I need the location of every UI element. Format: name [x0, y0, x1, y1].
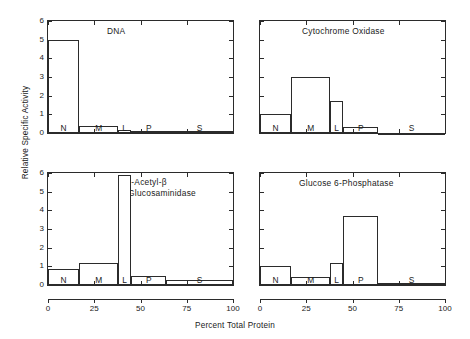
x-axis-tick-label: 0 [37, 304, 59, 313]
fraction-label-l: L [117, 123, 133, 133]
x-tick-top [48, 173, 49, 177]
x-axis-tick-label: 25 [295, 304, 317, 313]
fraction-label-p: P [353, 275, 369, 285]
x-tick-bottom [260, 281, 261, 285]
y-tick-label: 2 [32, 243, 44, 252]
y-tick-label: 6 [32, 16, 44, 25]
x-tick-bottom [187, 281, 188, 285]
y-tick-right [229, 40, 233, 41]
y-tick-right [441, 210, 445, 211]
x-axis-tick [445, 299, 446, 303]
y-tick-label: 1 [32, 261, 44, 270]
fraction-label-p: P [353, 123, 369, 133]
y-tick-right [229, 77, 233, 78]
y-tick-right [441, 40, 445, 41]
y-tick [260, 40, 264, 41]
fraction-label-s: S [404, 275, 420, 285]
y-tick-label: 5 [32, 35, 44, 44]
y-tick-right [441, 77, 445, 78]
x-tick-bottom [306, 129, 307, 133]
x-axis-tick [233, 299, 234, 303]
x-axis-tick-label: 0 [249, 304, 271, 313]
x-tick-top [260, 21, 261, 25]
y-tick-right [229, 133, 233, 134]
y-tick-right [441, 266, 445, 267]
x-tick-top [233, 21, 234, 25]
panel-glucose-6-phosphatase: Glucose 6-Phosphatase NMLPS [259, 172, 446, 286]
x-tick-top [399, 21, 400, 25]
x-axis-tick [94, 299, 95, 303]
y-tick [48, 248, 52, 249]
y-tick-right [229, 58, 233, 59]
y-tick-label: 0 [32, 280, 44, 289]
x-tick-bottom [141, 281, 142, 285]
y-tick-label: 0 [32, 128, 44, 137]
y-tick [260, 210, 264, 211]
y-tick-label: 3 [32, 224, 44, 233]
x-tick-top [187, 21, 188, 25]
y-tick [260, 229, 264, 230]
bar-s [378, 133, 445, 135]
x-tick-bottom [399, 281, 400, 285]
x-tick-top [187, 173, 188, 177]
y-tick-right [229, 229, 233, 230]
y-tick [260, 58, 264, 59]
y-tick [48, 96, 52, 97]
y-tick [260, 96, 264, 97]
x-axis-bottom-left: 0255075100 [47, 299, 234, 317]
x-tick-bottom [233, 281, 234, 285]
panel-title-cytochrome-oxidase: Cytochrome Oxidase [302, 26, 385, 37]
panel-dna: DNA NMLPS 0123456 [47, 20, 234, 134]
y-tick [48, 229, 52, 230]
x-axis-tick-label: 100 [222, 304, 244, 313]
y-tick-label: 3 [32, 72, 44, 81]
x-axis-tick [353, 299, 354, 303]
y-tick-right [441, 229, 445, 230]
x-tick-top [94, 173, 95, 177]
y-tick-right [229, 192, 233, 193]
x-axis-tick [399, 299, 400, 303]
fraction-label-s: S [192, 123, 208, 133]
y-tick [260, 77, 264, 78]
y-tick-right [441, 248, 445, 249]
x-axis-tick-label: 25 [83, 304, 105, 313]
y-tick-right [441, 58, 445, 59]
y-tick-label: 2 [32, 91, 44, 100]
fraction-label-n: N [56, 275, 72, 285]
x-tick-bottom [48, 281, 49, 285]
x-tick-bottom [48, 129, 49, 133]
x-tick-bottom [94, 281, 95, 285]
x-tick-bottom [260, 129, 261, 133]
y-tick [260, 114, 264, 115]
panel-cytochrome-oxidase: Cytochrome Oxidase NMLPS [259, 20, 446, 134]
x-tick-bottom [445, 129, 446, 133]
x-axis-tick [187, 299, 188, 303]
y-tick [48, 133, 52, 134]
x-tick-top [94, 21, 95, 25]
figure-container: Relative Specific Activity Percent Total… [0, 0, 470, 339]
x-axis-tick-label: 75 [176, 304, 198, 313]
panel-title-n-acetyl-glucosaminidase: N-Acetyl-β -Glucosaminidase [125, 177, 196, 198]
fraction-label-p: P [141, 275, 157, 285]
y-tick [260, 248, 264, 249]
bar-n [48, 40, 79, 133]
y-axis-label: Relative Specific Activity [21, 48, 30, 218]
fraction-label-p: P [141, 123, 157, 133]
y-tick-right [229, 96, 233, 97]
y-tick [48, 285, 52, 286]
y-tick [260, 133, 264, 134]
fraction-label-l: L [329, 123, 345, 133]
y-tick-right [441, 285, 445, 286]
x-tick-top [306, 21, 307, 25]
x-axis-tick [141, 299, 142, 303]
panel-title-glucose-6-phosphatase: Glucose 6-Phosphatase [299, 178, 394, 189]
x-tick-top [141, 21, 142, 25]
y-tick-right [229, 285, 233, 286]
x-axis-tick-label: 75 [388, 304, 410, 313]
y-tick-label: 5 [32, 187, 44, 196]
x-tick-bottom [306, 281, 307, 285]
y-tick-right [441, 96, 445, 97]
panel-title-line-1: N-Acetyl-β [125, 177, 196, 188]
y-tick [48, 58, 52, 59]
y-tick-right [229, 210, 233, 211]
